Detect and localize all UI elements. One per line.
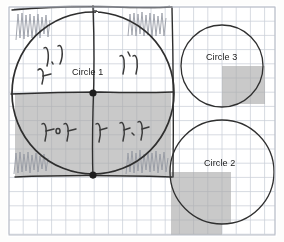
circle1-lower-dot (89, 171, 96, 178)
circle2-lower-left-shade (171, 172, 222, 235)
circle-2-label: Circle 2 (204, 158, 235, 168)
circle-3-label: Circle 3 (206, 52, 237, 62)
graph-paper-drawing (0, 0, 284, 242)
circle1-center-dot (89, 89, 96, 96)
sketch-canvas: Circle 1 Circle 3 Circle 2 (0, 0, 284, 242)
circle-1-label: Circle 1 (72, 67, 103, 77)
